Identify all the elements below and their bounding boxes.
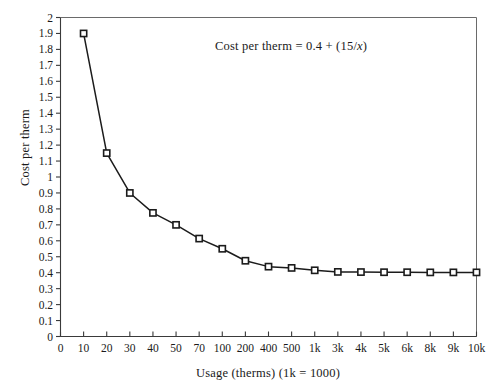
y-tick-label: 1.5 bbox=[39, 91, 54, 103]
y-tick-label: 0 bbox=[47, 331, 53, 343]
y-tick-label: 0.9 bbox=[39, 187, 54, 199]
data-series-markers bbox=[81, 30, 480, 275]
data-point-marker bbox=[312, 267, 318, 273]
y-tick-label: 1.2 bbox=[39, 139, 54, 151]
x-tick-label: 1k bbox=[309, 342, 321, 354]
y-tick-label: 1.4 bbox=[39, 107, 54, 119]
y-tick-label: 1.1 bbox=[39, 155, 54, 167]
data-point-marker bbox=[81, 30, 87, 36]
data-point-marker bbox=[150, 210, 156, 216]
x-tick-label: 500 bbox=[283, 342, 301, 354]
data-point-marker bbox=[104, 150, 110, 156]
y-tick-label: 1.7 bbox=[39, 59, 54, 71]
y-tick-label: 0.1 bbox=[39, 315, 54, 327]
x-tick-label: 8k bbox=[425, 342, 437, 354]
data-point-marker bbox=[289, 265, 295, 271]
x-tick-label: 5k bbox=[378, 342, 390, 354]
y-tick-label: 1 bbox=[47, 171, 53, 183]
y-tick-label: 0.2 bbox=[39, 299, 54, 311]
y-tick-label: 0.3 bbox=[39, 283, 54, 295]
y-tick-label: 0.8 bbox=[39, 203, 54, 215]
y-tick-label: 0.6 bbox=[39, 235, 54, 247]
y-tick-label: 0.7 bbox=[39, 219, 54, 231]
y-tick-label: 0.4 bbox=[39, 267, 54, 279]
y-tick-label: 0.5 bbox=[39, 251, 54, 263]
data-point-marker bbox=[219, 246, 225, 252]
data-point-marker bbox=[196, 235, 202, 241]
data-point-marker bbox=[242, 258, 248, 264]
x-tick-label: 10 bbox=[78, 342, 90, 354]
x-tick-label: 200 bbox=[237, 342, 255, 354]
data-point-marker bbox=[450, 269, 456, 275]
y-tick-label: 1.6 bbox=[39, 75, 54, 87]
x-tick-label: 9k bbox=[448, 342, 460, 354]
x-tick-label: 400 bbox=[260, 342, 278, 354]
x-axis-ticks: 01020304050701002004005001k3k4k5k6k8k9k1… bbox=[58, 332, 486, 354]
x-tick-label: 4k bbox=[355, 342, 367, 354]
x-tick-label: 100 bbox=[214, 342, 232, 354]
data-point-marker bbox=[427, 269, 433, 275]
data-point-marker bbox=[335, 269, 341, 275]
x-tick-label: 70 bbox=[193, 342, 205, 354]
data-series-line bbox=[84, 33, 477, 272]
data-point-marker bbox=[127, 190, 133, 196]
x-tick-label: 40 bbox=[147, 342, 159, 354]
x-tick-label: 20 bbox=[101, 342, 113, 354]
x-tick-label: 30 bbox=[124, 342, 136, 354]
y-tick-label: 1.3 bbox=[39, 123, 54, 135]
data-point-marker bbox=[173, 222, 179, 228]
chart-figure: Cost per therm Usage (therms) (1k = 1000… bbox=[0, 0, 495, 392]
x-tick-label: 50 bbox=[170, 342, 182, 354]
plot-area: 00.10.20.30.40.50.60.70.80.911.11.21.31.… bbox=[0, 0, 495, 392]
data-point-marker bbox=[381, 269, 387, 275]
data-point-marker bbox=[265, 264, 271, 270]
y-axis-ticks: 00.10.20.30.40.50.60.70.80.911.11.21.31.… bbox=[39, 12, 61, 343]
data-point-marker bbox=[404, 269, 410, 275]
y-tick-label: 2 bbox=[47, 12, 53, 24]
data-point-marker bbox=[358, 269, 364, 275]
plot-frame bbox=[61, 18, 477, 337]
x-tick-label: 6k bbox=[401, 342, 413, 354]
x-tick-label: 10k bbox=[468, 342, 486, 354]
x-tick-label: 3k bbox=[332, 342, 344, 354]
data-point-marker bbox=[473, 269, 479, 275]
y-tick-label: 1.9 bbox=[39, 27, 54, 39]
y-tick-label: 1.8 bbox=[39, 43, 54, 55]
x-tick-label: 0 bbox=[58, 342, 64, 354]
